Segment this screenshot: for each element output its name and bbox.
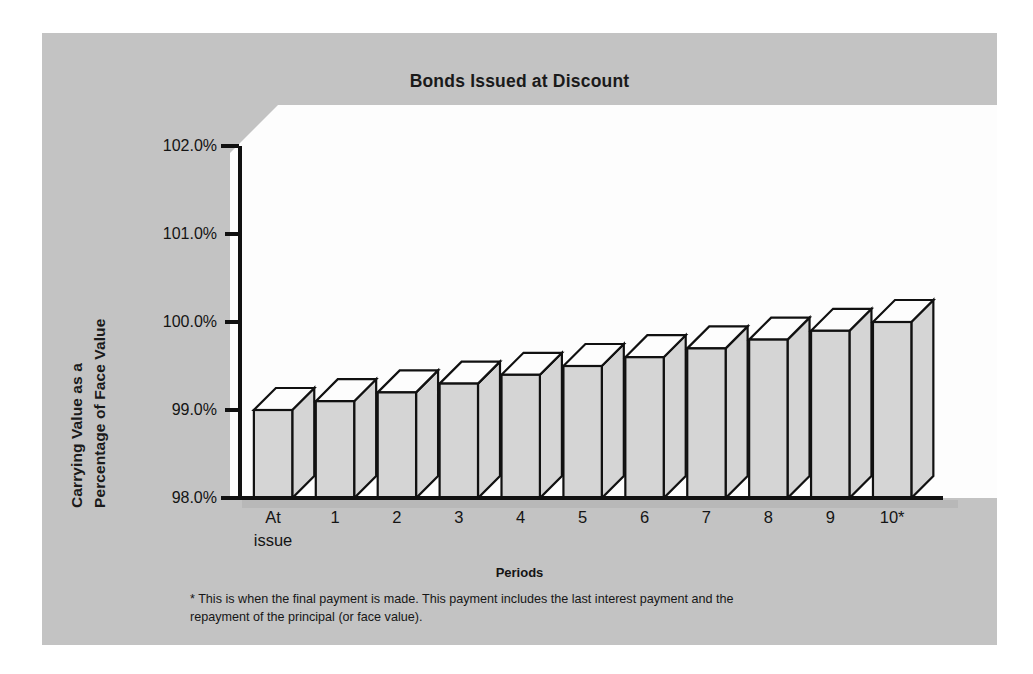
bar bbox=[440, 362, 500, 498]
bar-side-face bbox=[664, 335, 686, 498]
x-axis-tick-label: 7 bbox=[672, 506, 741, 529]
y-axis-tick-label: 101.0% bbox=[117, 225, 217, 243]
x-axis-tick-label: 10* bbox=[857, 506, 926, 529]
bar bbox=[378, 370, 438, 498]
x-axis-tick-labels: At issue12345678910* bbox=[42, 506, 997, 566]
x-axis-tick-label: At issue bbox=[238, 506, 307, 552]
bar bbox=[625, 335, 685, 498]
x-axis-title: Periods bbox=[42, 565, 997, 580]
y-axis-tick-mark bbox=[221, 496, 239, 500]
bar-side-face bbox=[540, 353, 562, 498]
x-axis-tick-label: 5 bbox=[548, 506, 617, 529]
y-axis-tick-mark bbox=[225, 232, 239, 236]
y-axis-tick-label: 100.0% bbox=[117, 313, 217, 331]
y-axis-tick-mark bbox=[225, 408, 239, 412]
x-axis-tick-label: 8 bbox=[734, 506, 803, 529]
y-axis-tick-label: 99.0% bbox=[117, 401, 217, 419]
x-axis-tick-label: 2 bbox=[362, 506, 431, 529]
bar-front-face bbox=[378, 392, 416, 498]
x-axis-line bbox=[238, 496, 943, 500]
y-axis-tick-mark bbox=[225, 320, 239, 324]
bar-front-face bbox=[563, 366, 601, 498]
bar-front-face bbox=[811, 331, 849, 498]
bar-side-face bbox=[602, 344, 624, 498]
bar-front-face bbox=[440, 384, 478, 498]
bar-front-face bbox=[873, 322, 911, 498]
bar-front-face bbox=[625, 357, 663, 498]
y-axis-tick-label: 102.0% bbox=[117, 137, 217, 155]
bar bbox=[873, 300, 933, 498]
bar-side-face bbox=[849, 309, 871, 498]
bar bbox=[563, 344, 623, 498]
bar-side-face bbox=[478, 362, 500, 498]
bar-front-face bbox=[316, 401, 354, 498]
x-axis-tick-label: 9 bbox=[796, 506, 865, 529]
footnote-line-1: * This is when the final payment is made… bbox=[190, 591, 890, 609]
bar bbox=[316, 379, 376, 498]
x-axis-tick-label: 3 bbox=[424, 506, 493, 529]
bar-side-face bbox=[911, 300, 933, 498]
bar-side-face bbox=[788, 318, 810, 498]
bar bbox=[811, 309, 871, 498]
x-axis-tick-label: 4 bbox=[486, 506, 555, 529]
chart-figure: Bonds Issued at Discount Carrying Value … bbox=[42, 33, 997, 645]
bar bbox=[254, 388, 314, 498]
y-axis-tick-mark bbox=[221, 144, 239, 148]
footnote-line-2: repayment of the principal (or face valu… bbox=[190, 609, 890, 627]
y-axis-tick-label: 98.0% bbox=[117, 489, 217, 507]
chart-footnote: * This is when the final payment is made… bbox=[190, 591, 890, 627]
bar bbox=[502, 353, 562, 498]
bar-side-face bbox=[726, 326, 748, 498]
x-axis-tick-label: 1 bbox=[300, 506, 369, 529]
bar-front-face bbox=[749, 340, 787, 498]
x-axis-tick-label: 6 bbox=[610, 506, 679, 529]
bar-front-face bbox=[254, 410, 292, 498]
bar-front-face bbox=[502, 375, 540, 498]
bar bbox=[749, 318, 809, 498]
bar-front-face bbox=[687, 348, 725, 498]
bar bbox=[687, 326, 747, 498]
